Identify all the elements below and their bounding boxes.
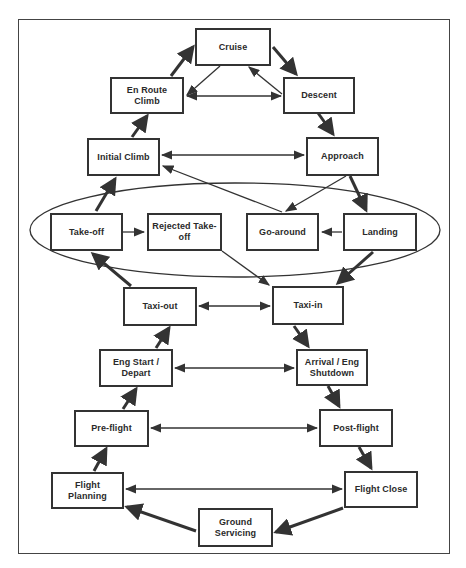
edge-approach-goaround [286, 176, 346, 211]
edge-cruise-enrouteclimb [187, 66, 220, 95]
node-taxi-out: Taxi-out [123, 287, 197, 326]
edge-engstart-taxiout [156, 328, 169, 348]
edge-postflight-flightclose [359, 447, 371, 468]
node-flight-close: Flight Close [344, 471, 418, 508]
edge-rejected-taxiin [222, 251, 269, 285]
node-en-route-climb: En Route Climb [110, 77, 184, 114]
edge-landing-taxiin [338, 252, 373, 283]
node-descent: Descent [283, 77, 355, 114]
node-landing: Landing [343, 213, 417, 251]
edge-initialclimb-enrouteclimb [132, 116, 147, 137]
node-approach: Approach [306, 137, 379, 176]
node-taxi-in: Taxi-in [272, 286, 344, 325]
node-rejected-take-off: Rejected Take- off [147, 213, 222, 251]
edge-groundservicing-flightplanning [127, 507, 196, 531]
edge-descent-approach [318, 113, 333, 134]
edge-flightplanning-preflight [94, 449, 106, 471]
edge-flightclose-groundservicing [276, 508, 343, 532]
node-ground-servicing: Ground Servicing [198, 508, 273, 547]
node-post-flight: Post-flight [319, 409, 393, 447]
node-flight-planning: Flight Planning [51, 472, 124, 509]
node-initial-climb: Initial Climb [87, 138, 160, 176]
edge-preflight-engstart [123, 389, 136, 409]
edge-enrouteclimb-cruise [171, 47, 193, 76]
edge-taxiin-arrival [294, 326, 308, 346]
node-go-around: Go-around [246, 213, 319, 251]
edge-arrival-postflight [328, 386, 339, 406]
edge-cruise-descent [273, 47, 296, 74]
diagram-canvas: Cruise En Route Climb Descent Initial Cl… [0, 0, 466, 568]
edge-goaround-initialclimb [163, 166, 282, 212]
node-arrival-eng-shutdown: Arrival / Eng Shutdown [296, 349, 368, 386]
node-cruise: Cruise [195, 28, 271, 66]
node-eng-start-depart: Eng Start / Depart [99, 349, 173, 387]
node-pre-flight: Pre-flight [74, 410, 149, 447]
edge-descent-cruise [249, 67, 282, 94]
node-take-off: Take-off [50, 213, 123, 251]
